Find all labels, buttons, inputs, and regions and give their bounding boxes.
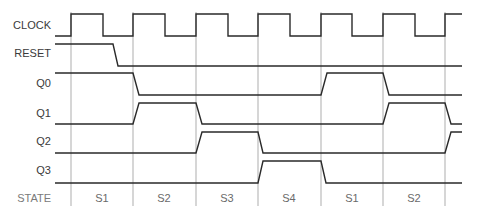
label-clock: CLOCK (13, 19, 52, 31)
wave-clock (55, 14, 462, 36)
wave-q3 (55, 161, 462, 183)
state-cell: S2 (407, 192, 420, 204)
label-q3: Q3 (36, 164, 51, 176)
gridlines (71, 12, 445, 206)
label-state: STATE (17, 192, 51, 204)
wave-reset (55, 44, 462, 66)
wave-q1 (55, 103, 462, 124)
state-cell: S1 (345, 192, 358, 204)
state-cell: S2 (157, 192, 170, 204)
label-q1: Q1 (36, 107, 51, 119)
wave-q2 (55, 132, 462, 153)
timing-diagram: CLOCK RESET Q0 Q1 Q2 Q3 STATE S1 S2 S3 S… (0, 0, 479, 216)
state-cell: S1 (95, 192, 108, 204)
state-cell: S4 (282, 192, 295, 204)
wave-q0 (55, 73, 462, 95)
label-reset: RESET (14, 47, 51, 59)
state-cell: S3 (220, 192, 233, 204)
waveforms (55, 14, 462, 183)
signal-labels: CLOCK RESET Q0 Q1 Q2 Q3 STATE (13, 19, 52, 204)
label-q2: Q2 (36, 135, 51, 147)
label-q0: Q0 (36, 77, 51, 89)
